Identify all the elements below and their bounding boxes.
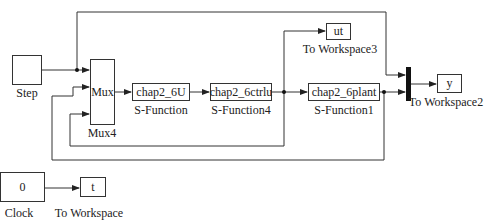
- to-workspace-y-block[interactable]: y: [437, 74, 462, 93]
- step-block[interactable]: [12, 55, 42, 85]
- sfunction-plant-label: S-Function1: [314, 103, 373, 118]
- sfunction-plant-text: chap2_6plant: [312, 85, 377, 100]
- to-workspace-t-block[interactable]: t: [80, 177, 106, 197]
- sfunction-ctrl-block[interactable]: chap2_6ctrlu: [210, 83, 272, 101]
- sfunction-plant-block[interactable]: chap2_6plant: [308, 83, 380, 101]
- to-workspace-ut-text: ut: [334, 24, 343, 39]
- branch-point: [382, 90, 386, 94]
- to-workspace-ut-label: To Workspace3: [303, 42, 377, 57]
- to-workspace-t-label: To Workspace: [55, 206, 123, 221]
- branch-point: [75, 68, 79, 72]
- sfunction-ctrl-label: S-Function4: [211, 103, 270, 118]
- clock-text: 0: [20, 180, 26, 195]
- to-workspace-y-label: To Workspace2: [409, 95, 483, 110]
- mux-label: Mux4: [88, 126, 117, 141]
- sfunction-u-label: S-Function: [134, 103, 187, 118]
- sfunction-u-block[interactable]: chap2_6U: [132, 83, 190, 101]
- clock-block[interactable]: 0: [0, 172, 45, 202]
- sfunction-u-text: chap2_6U: [136, 85, 185, 100]
- to-workspace-t-text: t: [91, 180, 94, 195]
- to-workspace-ut-block[interactable]: ut: [326, 23, 351, 40]
- clock-label: Clock: [5, 206, 34, 221]
- to-workspace-y-text: y: [447, 76, 453, 91]
- step-label: Step: [16, 86, 37, 101]
- mux-block[interactable]: Mux: [90, 59, 115, 125]
- sfunction-ctrl-text: chap2_6ctrlu: [210, 85, 273, 100]
- mux-text: Mux: [91, 85, 114, 100]
- branch-point: [282, 90, 286, 94]
- simulink-diagram-canvas: Step Mux Mux4 chap2_6U S-Function chap2_…: [0, 0, 484, 223]
